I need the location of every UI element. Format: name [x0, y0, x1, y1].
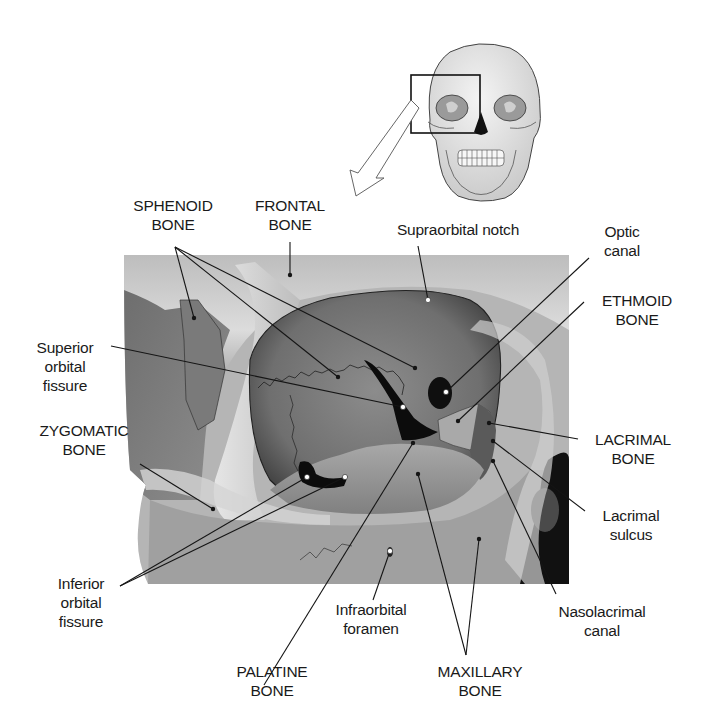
label-supraorbital-notch: Supraorbital notch: [368, 220, 548, 239]
label-nasolacrimal-line1: Nasolacrimal: [542, 602, 662, 621]
label-supraorbital-line1: Supraorbital notch: [368, 220, 548, 239]
label-zygomatic-line1: ZYGOMATIC: [24, 421, 144, 440]
label-sof-line3: fissure: [22, 376, 108, 395]
label-ethmoid-bone: ETHMOID BONE: [587, 291, 687, 329]
label-optic-line1: Optic: [587, 222, 657, 241]
label-optic-canal: Optic canal: [587, 222, 657, 260]
label-sphenoid-line2: BONE: [118, 215, 228, 234]
label-lacrimal-sulcus: Lacrimal sulcus: [590, 506, 672, 544]
label-iof-line1: Inferior: [40, 574, 122, 593]
label-infraorbital-foramen: Infraorbital foramen: [318, 600, 424, 638]
label-frontal-line2: BONE: [240, 215, 340, 234]
label-iof-line2: orbital: [40, 593, 122, 612]
label-lacrimal-line2: BONE: [580, 449, 686, 468]
label-zygomatic-bone: ZYGOMATIC BONE: [24, 421, 144, 459]
label-sulcus-line2: sulcus: [590, 525, 672, 544]
label-lacrimal-bone: LACRIMAL BONE: [580, 430, 686, 468]
label-frontal-bone: FRONTAL BONE: [240, 196, 340, 234]
callout-arrow-icon: [350, 100, 419, 196]
label-sof-line1: Superior: [22, 338, 108, 357]
label-superior-orbital-fissure: Superior orbital fissure: [22, 338, 108, 395]
label-iof-line3: fissure: [40, 612, 122, 631]
label-ioforamen-line2: foramen: [318, 619, 424, 638]
label-ioforamen-line1: Infraorbital: [318, 600, 424, 619]
label-nasolacrimal-line2: canal: [542, 621, 662, 640]
label-maxillary-bone: MAXILLARY BONE: [420, 662, 540, 700]
label-zygomatic-line2: BONE: [24, 440, 144, 459]
label-sulcus-line1: Lacrimal: [590, 506, 672, 525]
label-frontal-line1: FRONTAL: [240, 196, 340, 215]
label-palatine-line1: PALATINE: [222, 662, 322, 681]
label-ethmoid-line2: BONE: [587, 310, 687, 329]
label-optic-line2: canal: [587, 241, 657, 260]
label-inferior-orbital-fissure: Inferior orbital fissure: [40, 574, 122, 631]
orbit-illustration: [120, 250, 575, 590]
label-lacrimal-line1: LACRIMAL: [580, 430, 686, 449]
label-sof-line2: orbital: [22, 357, 108, 376]
label-palatine-bone: PALATINE BONE: [222, 662, 322, 700]
label-maxillary-line2: BONE: [420, 681, 540, 700]
label-sphenoid-line1: SPHENOID: [118, 196, 228, 215]
label-maxillary-line1: MAXILLARY: [420, 662, 540, 681]
skull-inset: [350, 44, 540, 201]
label-sphenoid-bone: SPHENOID BONE: [118, 196, 228, 234]
label-ethmoid-line1: ETHMOID: [587, 291, 687, 310]
skull-anterior-icon: [428, 44, 540, 201]
label-nasolacrimal-canal: Nasolacrimal canal: [542, 602, 662, 640]
label-palatine-line2: BONE: [222, 681, 322, 700]
